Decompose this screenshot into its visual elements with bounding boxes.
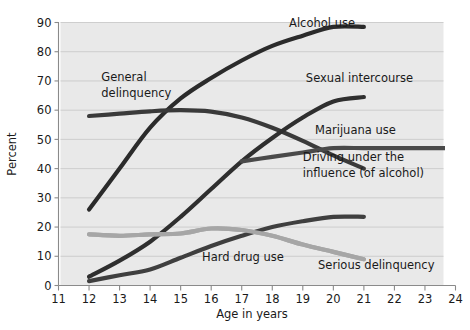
y-tick-label: 40 — [37, 162, 52, 176]
x-tick-label: 24 — [448, 292, 463, 306]
series-label: Driving under the — [303, 150, 404, 164]
series-label: delinquency — [101, 86, 171, 100]
line-chart: 0102030405060708090 11121314151617181920… — [0, 0, 470, 330]
series-label: Alcohol use — [289, 16, 355, 30]
x-tick-label: 12 — [82, 292, 97, 306]
y-tick-label: 50 — [37, 133, 52, 147]
y-axis-title: Percent — [5, 132, 19, 176]
y-tick-label: 90 — [37, 16, 52, 30]
x-tick-label: 19 — [295, 292, 310, 306]
x-tick-label: 20 — [326, 292, 341, 306]
series-label: General — [101, 70, 146, 84]
chart-figure: 0102030405060708090 11121314151617181920… — [0, 0, 470, 330]
x-tick-label: 14 — [143, 292, 158, 306]
y-tick-label: 20 — [37, 220, 52, 234]
x-tick-label: 23 — [418, 292, 433, 306]
y-tick-label: 80 — [37, 45, 52, 59]
series-label: influence (of alcohol) — [303, 166, 424, 180]
y-tick-label: 10 — [37, 249, 52, 263]
y-tick-label: 60 — [37, 103, 52, 117]
series-label: Hard drug use — [202, 250, 284, 264]
x-tick-label: 17 — [234, 292, 249, 306]
series-label: Sexual intercourse — [306, 71, 413, 85]
y-tick-label: 30 — [37, 191, 52, 205]
x-tick-label: 15 — [173, 292, 188, 306]
x-tick-label: 11 — [51, 292, 66, 306]
x-tick-label: 21 — [357, 292, 372, 306]
x-tick-label: 13 — [112, 292, 127, 306]
x-axis-title: Age in years — [216, 307, 288, 321]
x-tick-label: 18 — [265, 292, 280, 306]
series-label: Marijuana use — [315, 123, 396, 137]
x-tick-label: 22 — [387, 292, 402, 306]
y-tick-label: 70 — [37, 74, 52, 88]
x-tick-label: 16 — [204, 292, 219, 306]
series-label: Serious delinquency — [318, 258, 435, 272]
